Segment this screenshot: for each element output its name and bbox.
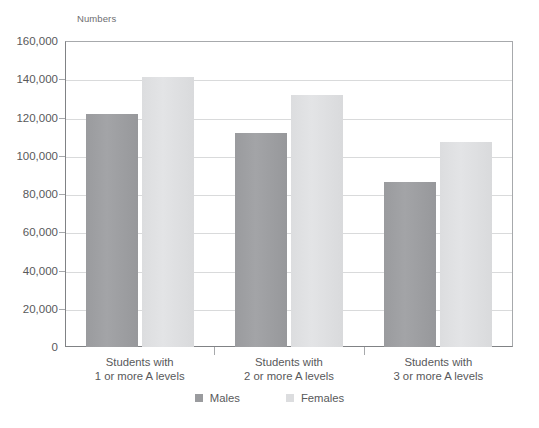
bar-chart: Numbers 020,00040,00060,00080,000100,000…: [0, 0, 539, 428]
gridline: [66, 80, 512, 81]
y-tick-label: 60,000: [0, 226, 58, 238]
gridline: [66, 157, 512, 158]
y-tick-mark: [59, 232, 65, 233]
y-tick-label: 100,000: [0, 150, 58, 162]
x-category-label-line2: 2 or more A levels: [214, 369, 363, 383]
x-category-label: Students with1 or more A levels: [65, 355, 214, 383]
x-category-label: Students with2 or more A levels: [214, 355, 363, 383]
x-category-label-line2: 3 or more A levels: [364, 369, 513, 383]
legend-item-males[interactable]: Males: [195, 392, 240, 404]
y-tick-mark: [59, 309, 65, 310]
x-category-label: Students with3 or more A levels: [364, 355, 513, 383]
y-tick-label: 140,000: [0, 73, 58, 85]
axis-unit-label: Numbers: [77, 13, 116, 24]
x-category-label-line2: 1 or more A levels: [65, 369, 214, 383]
x-tick-mark: [214, 347, 215, 355]
y-tick-label: 0: [0, 341, 58, 353]
x-category-label-line1: Students with: [404, 356, 472, 368]
y-tick-label: 120,000: [0, 112, 58, 124]
y-tick-label: 80,000: [0, 188, 58, 200]
females-swatch-icon: [286, 394, 294, 402]
y-axis: 020,00040,00060,00080,000100,000120,0001…: [0, 41, 58, 347]
gridline: [66, 233, 512, 234]
gridline: [66, 119, 512, 120]
x-tick-mark: [364, 347, 365, 355]
y-tick-label: 160,000: [0, 35, 58, 47]
x-category-label-line1: Students with: [106, 356, 174, 368]
y-tick-mark: [59, 79, 65, 80]
gridline: [66, 272, 512, 273]
legend-label: Males: [210, 392, 240, 404]
chart-legend: MalesFemales: [0, 392, 539, 404]
legend-label: Females: [301, 392, 344, 404]
y-tick-label: 40,000: [0, 265, 58, 277]
gridline: [66, 310, 512, 311]
y-tick-mark: [59, 194, 65, 195]
y-tick-mark: [59, 156, 65, 157]
plot-area: [65, 41, 513, 347]
x-category-label-line1: Students with: [255, 356, 323, 368]
gridline: [66, 195, 512, 196]
y-tick-mark: [59, 118, 65, 119]
y-tick-label: 20,000: [0, 303, 58, 315]
y-tick-mark: [59, 271, 65, 272]
males-swatch-icon: [195, 394, 203, 402]
legend-item-females[interactable]: Females: [286, 392, 344, 404]
